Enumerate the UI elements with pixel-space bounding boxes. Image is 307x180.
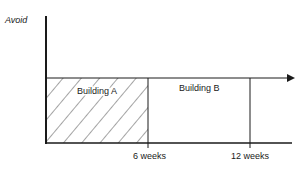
building-b-label: Building B — [179, 83, 220, 93]
tick-label-6-weeks: 6 weeks — [133, 151, 167, 161]
arrow-head-icon — [287, 74, 295, 82]
diagram: Avoid Building A Building B 6 weeks 12 w… — [0, 0, 307, 180]
y-axis-label: Avoid — [4, 15, 28, 25]
building-a-label: Building A — [77, 86, 117, 96]
tick-label-12-weeks: 12 weeks — [231, 151, 270, 161]
